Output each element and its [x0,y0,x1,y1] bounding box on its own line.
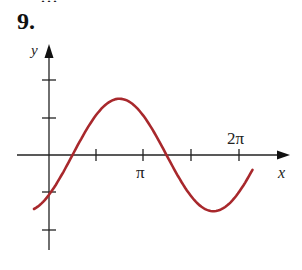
x-axis-label: x [277,164,285,181]
axes [17,56,280,250]
sine-graph: y x π 2π [0,0,302,270]
y-axis-arrow-icon [45,44,54,58]
x-tick-label-pi: π [136,163,145,182]
y-axis-label: y [29,42,38,58]
x-axis-arrow-icon [277,151,290,160]
x-tick-label-2pi: 2π [227,129,245,148]
